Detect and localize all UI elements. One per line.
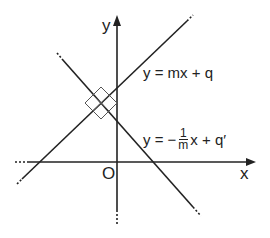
line-2-equation-suffix: x + q′: [190, 131, 226, 148]
fraction-one-over-m: 1 m: [178, 128, 188, 151]
line-2-dashed-start: [57, 53, 62, 59]
diagram-graphics: [0, 0, 270, 238]
line-2-equation: y = − 1 m x + q′: [143, 128, 226, 151]
line-2-equation-prefix: y = −: [143, 131, 176, 148]
y-axis-arrow-icon: [113, 15, 121, 26]
line-2-dashed-end: [193, 207, 201, 216]
line-1-dashed-start: [17, 179, 22, 184]
x-axis-label: x: [240, 164, 249, 184]
origin-label: O: [102, 164, 115, 184]
y-axis-label: y: [102, 16, 111, 36]
line-1-equation: y = mx + q: [143, 64, 213, 81]
fraction-denominator: m: [178, 140, 188, 151]
line-1-dashed-end: [187, 15, 193, 21]
perpendicular-lines-diagram: y O x y = mx + q y = − 1 m x + q′: [0, 0, 270, 238]
